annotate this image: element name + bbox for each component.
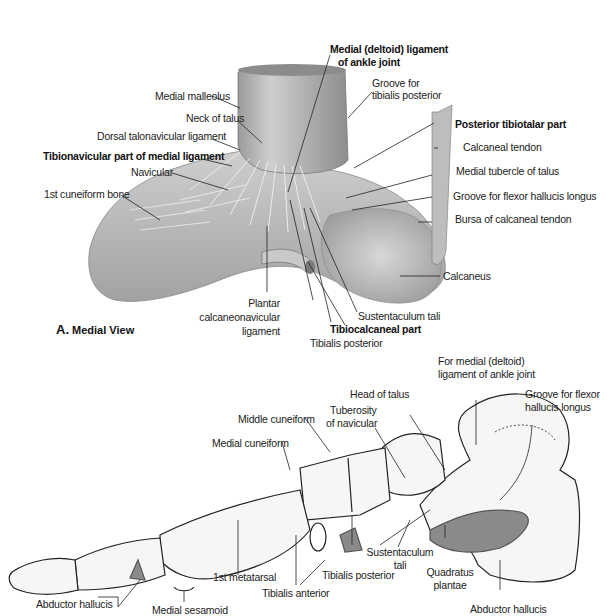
label-tuberosity-of-navicular: Tuberosity <box>330 404 377 416</box>
label-abductor-hallucis-right: Abductor hallucis <box>470 603 547 615</box>
label-plantar-calcaneonavicular-2: calcaneonavicular <box>180 311 280 323</box>
caption-title: Medial View <box>72 324 134 336</box>
label-abductor-hallucis-left: Abductor hallucis <box>36 598 113 610</box>
label-groove-tibialis-posterior: Groove for <box>372 77 420 89</box>
label-tibialis-anterior: Tibialis anterior <box>262 587 329 599</box>
label-for-medial-deltoid-2: ligament of ankle joint <box>438 368 535 380</box>
label-1st-cuneiform-bone: 1st cuneiform bone <box>44 188 130 200</box>
label-medial-deltoid-ligament: Medial (deltoid) ligament <box>330 43 448 55</box>
caption-letter: A. <box>56 322 69 337</box>
figure-a-caption: A. Medial View <box>56 322 134 337</box>
label-medial-malleolus: Medial malleolus <box>155 90 230 102</box>
label-plantar-calcaneonavicular: Plantar <box>200 297 280 309</box>
label-tibiocalcaneal-part: Tibiocalcaneal part <box>330 323 421 335</box>
label-quadratus-plantae-2: plantae <box>420 579 480 591</box>
label-calcaneus: Calcaneus <box>443 270 491 282</box>
label-calcaneal-tendon: Calcaneal tendon <box>463 141 542 153</box>
label-medial-deltoid-ligament-2: of ankle joint <box>338 56 400 68</box>
label-sustentaculum-tali-b: Sustentaculum <box>365 546 435 558</box>
label-head-of-talus: Head of talus <box>350 388 409 400</box>
label-for-medial-deltoid: For medial (deltoid) <box>438 355 524 367</box>
label-groove-flexor-hallucis-longus: Groove for flexor hallucis longus <box>453 190 596 202</box>
label-medial-tubercle-of-talus: Medial tubercle of talus <box>456 165 559 177</box>
label-tibionavicular-part: Tibionavicular part of medial ligament <box>43 150 224 162</box>
label-middle-cuneiform: Middle cuneiform <box>238 413 315 425</box>
label-1st-metatarsal: 1st metatarsal <box>213 571 276 583</box>
label-dorsal-talonavicular-ligament: Dorsal talonavicular ligament <box>97 130 226 142</box>
label-tibialis-posterior-b: Tibialis posterior <box>322 569 394 581</box>
label-tibialis-posterior-a: Tibialis posterior <box>310 337 382 349</box>
label-navicular: Navicular <box>131 166 173 178</box>
label-plantar-calcaneonavicular-3: ligament <box>200 325 280 337</box>
label-medial-sesamoid: Medial sesamoid <box>152 604 228 616</box>
label-groove-tibialis-posterior-2: tibialis posterior <box>372 89 441 101</box>
label-quadratus-plantae: Quadratus <box>420 566 480 578</box>
label-bursa-calcaneal-tendon: Bursa of calcaneal tendon <box>455 213 571 225</box>
label-groove-flexor-hallucis-2: hallucis longus <box>525 401 591 413</box>
label-neck-of-talus: Neck of talus <box>186 112 244 124</box>
label-medial-cuneiform: Medial cuneiform <box>212 437 289 449</box>
label-sustentaculum-tali: Sustentaculum tali <box>358 310 440 322</box>
label-tuberosity-of-navicular-2: of navicular <box>326 417 377 429</box>
label-groove-flexor-hallucis: Groove for flexor <box>525 388 600 400</box>
label-posterior-tibiotalar-part: Posterior tibiotalar part <box>455 118 566 130</box>
